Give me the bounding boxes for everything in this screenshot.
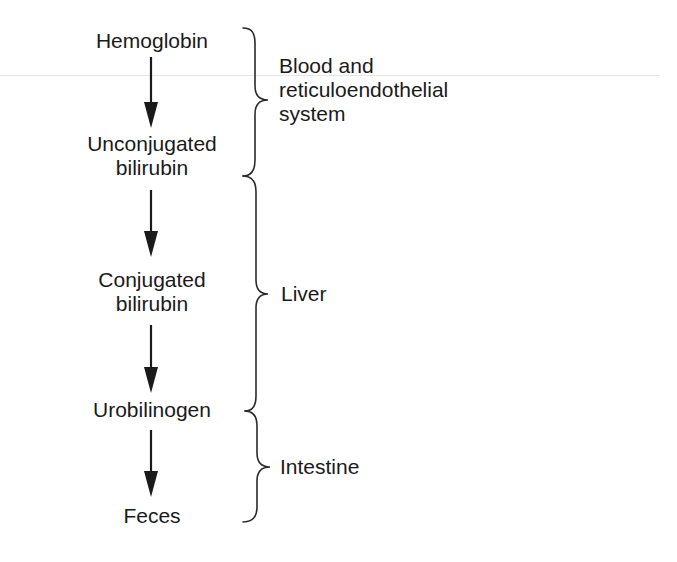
bilirubin-metabolism-diagram: Hemoglobin Unconjugated bilirubin Conjug… (0, 0, 677, 562)
arrow-down-icon (144, 57, 158, 128)
brace-liver-icon (243, 176, 268, 411)
brace-blood-res-icon (243, 28, 268, 176)
arrow-down-icon (144, 430, 158, 497)
flow-arrows (144, 57, 158, 497)
arrow-down-icon (144, 325, 158, 393)
brace-intestine-icon (243, 411, 270, 522)
diagram-graphics (0, 0, 677, 562)
arrow-down-icon (144, 190, 158, 257)
region-braces (243, 28, 270, 522)
